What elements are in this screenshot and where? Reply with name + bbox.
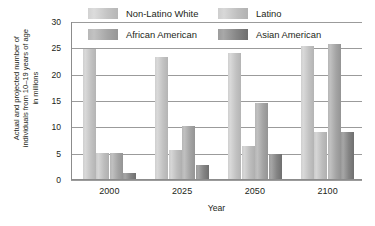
y-tick-label: 25 (51, 44, 61, 53)
legend-label-non-latino-white: Non-Latino White (126, 8, 198, 19)
y-tick-label: 5 (56, 149, 61, 158)
x-tick-label: 2025 (172, 186, 192, 197)
legend-label-latino: Latino (256, 8, 282, 19)
bar (83, 49, 96, 179)
bar (255, 103, 268, 179)
bar (269, 154, 282, 179)
x-tick-label: 2000 (99, 186, 119, 197)
chart-figure: Actual and projected number of individua… (0, 0, 375, 226)
x-tick-label: 2050 (245, 186, 265, 197)
legend-swatch-latino (218, 8, 248, 19)
bar (301, 46, 314, 179)
legend-swatch-non-latino-white (88, 8, 118, 19)
bar-series-container (71, 22, 362, 180)
y-tick-label: 0 (56, 176, 61, 185)
bar (169, 150, 182, 179)
y-tick-label: 15 (51, 97, 61, 106)
bar (228, 53, 241, 179)
y-tick-label: 20 (51, 70, 61, 79)
bar (328, 44, 341, 179)
x-axis-title: Year (71, 203, 362, 213)
y-axis-tick-labels: 051015202530 (0, 22, 68, 180)
bar (242, 146, 255, 179)
bar (341, 132, 354, 179)
bar (314, 132, 327, 179)
bar (96, 153, 109, 179)
legend-item-latino: Latino (218, 8, 282, 19)
bar (155, 57, 168, 179)
bar (182, 126, 195, 179)
gridline (71, 180, 362, 181)
bar (123, 173, 136, 179)
y-tick-label: 30 (51, 18, 61, 27)
plot-area (71, 22, 362, 180)
bar (196, 165, 209, 179)
y-tick-label: 10 (51, 123, 61, 132)
bar (110, 153, 123, 179)
legend-item-non-latino-white: Non-Latino White (88, 8, 198, 19)
x-tick-label: 2100 (318, 186, 338, 197)
x-axis-tick-labels: 2000202520502100 (71, 186, 362, 200)
